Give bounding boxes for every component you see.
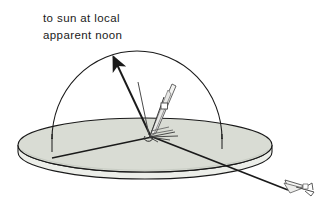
caption-line-2: apparent noon bbox=[43, 29, 122, 41]
celestial-dome bbox=[52, 51, 222, 140]
caption-label: to sun at local apparent noon bbox=[43, 12, 122, 41]
diagram-canvas: to sun at local apparent noon bbox=[0, 0, 326, 220]
observer-aircraft-canopy bbox=[161, 103, 168, 109]
distant-aircraft bbox=[284, 180, 314, 196]
distant-aircraft-canopy bbox=[303, 184, 308, 189]
diagram-svg: to sun at local apparent noon bbox=[0, 0, 326, 220]
caption-line-1: to sun at local bbox=[43, 12, 120, 24]
dome-outline bbox=[52, 51, 222, 139]
